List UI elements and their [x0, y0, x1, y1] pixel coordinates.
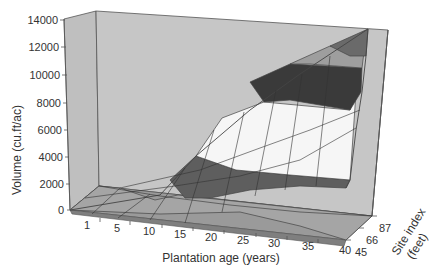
y-axis: 14000 12000 10000 8000 6000 4000 2000 0 [27, 14, 71, 216]
x-tick-25: 25 [237, 234, 249, 246]
z-tick-66: 66 [366, 234, 378, 246]
surface-chart: 14000 12000 10000 8000 6000 4000 2000 0 … [0, 0, 434, 274]
x-tick-35: 35 [302, 240, 314, 252]
x-axis-title: Plantation age (years) [162, 251, 279, 265]
x-tick-10: 10 [143, 225, 155, 237]
z-tick-45: 45 [355, 246, 367, 258]
y-tick-4000: 4000 [39, 151, 63, 163]
z-tick-87: 87 [379, 222, 391, 234]
x-tick-1: 1 [84, 219, 90, 231]
y-tick-2000: 2000 [40, 178, 64, 190]
x-tick-20: 20 [205, 231, 217, 243]
y-tick-14000: 14000 [27, 14, 58, 26]
y-axis-title: Volume (cu.ft/ac) [10, 105, 24, 195]
x-tick-15: 15 [174, 228, 186, 240]
y-tick-8000: 8000 [37, 97, 61, 109]
x-tick-30: 30 [268, 237, 280, 249]
y-tick-6000: 6000 [38, 124, 62, 136]
y-tick-10000: 10000 [29, 69, 60, 81]
y-tick-0: 0 [58, 204, 64, 216]
x-tick-40: 40 [339, 244, 351, 256]
y-tick-12000: 12000 [28, 41, 59, 53]
x-tick-5: 5 [114, 222, 120, 234]
